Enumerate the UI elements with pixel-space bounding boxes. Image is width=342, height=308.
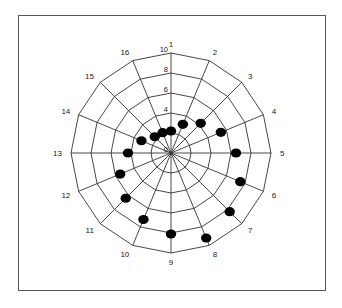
category-label-4: 4	[272, 107, 277, 116]
radial-tick-6: 6	[164, 85, 168, 94]
data-point-16	[157, 128, 167, 137]
spoke-15	[100, 82, 171, 153]
data-point-14	[136, 136, 146, 145]
data-point-5	[231, 148, 241, 157]
data-point-7	[224, 207, 234, 216]
radial-tick-8: 8	[164, 65, 168, 74]
spoke-3	[171, 82, 242, 153]
category-label-2: 2	[213, 48, 218, 57]
data-point-9	[166, 229, 176, 238]
category-label-14: 14	[61, 107, 70, 116]
category-label-15: 15	[85, 72, 94, 81]
category-label-13: 13	[53, 149, 62, 158]
category-label-9: 9	[169, 258, 174, 267]
data-point-13	[123, 148, 133, 157]
category-label-12: 12	[61, 191, 70, 200]
data-point-4	[216, 128, 226, 137]
radial-tick-labels: 046810	[160, 45, 168, 154]
data-point-6	[235, 177, 245, 186]
category-label-8: 8	[213, 250, 218, 259]
data-point-12	[115, 169, 125, 178]
category-label-10: 10	[120, 250, 129, 259]
category-label-1: 1	[169, 40, 174, 49]
data-point-11	[121, 194, 131, 203]
category-label-11: 11	[86, 226, 95, 235]
category-label-3: 3	[248, 72, 253, 81]
data-point-8	[201, 233, 211, 242]
data-point-3	[195, 119, 205, 128]
category-label-16: 16	[120, 48, 129, 57]
data-point-10	[138, 215, 148, 224]
data-point-2	[178, 120, 188, 129]
spoke-11	[100, 153, 171, 224]
category-label-6: 6	[272, 191, 277, 200]
radar-chart: 046810 12345678910111213141516	[0, 0, 342, 308]
radial-tick-0: 0	[164, 145, 168, 154]
radial-tick-4: 4	[164, 105, 168, 114]
category-label-5: 5	[280, 149, 285, 158]
radial-tick-10: 10	[160, 45, 168, 54]
category-label-7: 7	[248, 226, 253, 235]
